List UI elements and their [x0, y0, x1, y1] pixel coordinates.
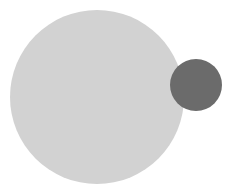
diagram-canvas	[0, 0, 237, 194]
large-circle	[10, 10, 184, 184]
small-circle	[170, 59, 222, 111]
